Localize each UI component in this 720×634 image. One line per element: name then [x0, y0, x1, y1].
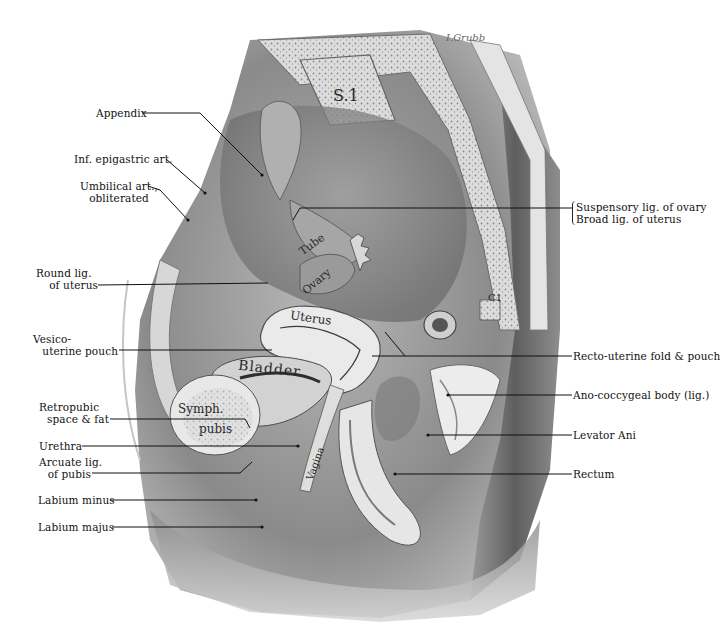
label-symph: Symph.	[178, 402, 224, 416]
label-umbilical-art: Umbilical art., obliterated	[74, 180, 164, 204]
label-inf-epigastric-art: Inf. epigastric art.	[74, 153, 172, 165]
artist-signature: I.Grubb	[446, 32, 485, 43]
label-levator-ani: Levator Ani	[573, 429, 636, 441]
label-vesico-uterine-pouch: Vesico- uterine pouch	[33, 333, 118, 357]
label-ano-coccygeal-body: Ano-coccygeal body (lig.)	[573, 389, 710, 401]
label-c1: C1	[488, 292, 502, 303]
label-s1: S.1	[333, 86, 359, 105]
label-recto-uterine-fold: Recto-uterine fold & pouch	[573, 350, 720, 362]
label-pubis: pubis	[199, 422, 232, 436]
label-labium-majus: Labium majus	[38, 521, 114, 533]
label-labium-minus: Labium minus	[38, 494, 115, 506]
label-urethra: Urethra	[39, 440, 82, 452]
label-retropubic-space: Retropubic space & fat	[39, 401, 109, 425]
label-appendix: Appendix	[96, 107, 147, 119]
label-round-lig-uterus: Round lig. of uterus	[36, 267, 98, 291]
label-rectum: Rectum	[573, 468, 615, 480]
label-arcuate-lig-pubis: Arcuate lig. of pubis	[39, 456, 91, 480]
label-suspensory-broad-lig: Suspensory lig. of ovary Broad lig. of u…	[572, 201, 707, 225]
